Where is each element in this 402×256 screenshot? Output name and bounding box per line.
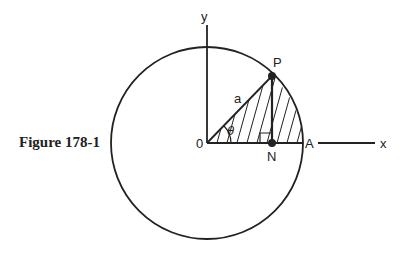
label-y: y bbox=[201, 9, 208, 24]
label-n: N bbox=[267, 149, 276, 164]
label-radius: a bbox=[234, 91, 242, 106]
point-n bbox=[268, 139, 276, 147]
label-origin: 0 bbox=[196, 136, 203, 151]
point-p bbox=[268, 72, 276, 80]
unit-circle-diagram: y x 0 P N A a θ bbox=[0, 0, 402, 256]
label-x: x bbox=[380, 136, 387, 151]
label-theta: θ bbox=[227, 123, 234, 138]
label-a-point: A bbox=[305, 136, 314, 151]
label-p: P bbox=[273, 55, 282, 70]
